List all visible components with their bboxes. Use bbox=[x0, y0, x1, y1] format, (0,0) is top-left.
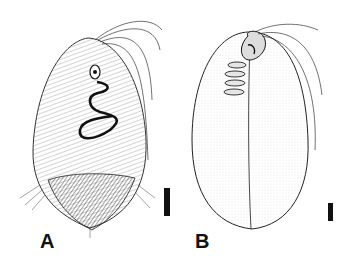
panel-b-label: B bbox=[195, 231, 209, 251]
figure: A B bbox=[0, 0, 351, 259]
illustration-canvas bbox=[0, 0, 351, 259]
panel-b-cell bbox=[192, 24, 322, 229]
panel-a-label: A bbox=[40, 231, 54, 251]
panel-a-scale-bar bbox=[164, 188, 170, 216]
panel-b-scale-bar bbox=[328, 203, 333, 221]
panel-a-cell bbox=[20, 21, 162, 238]
